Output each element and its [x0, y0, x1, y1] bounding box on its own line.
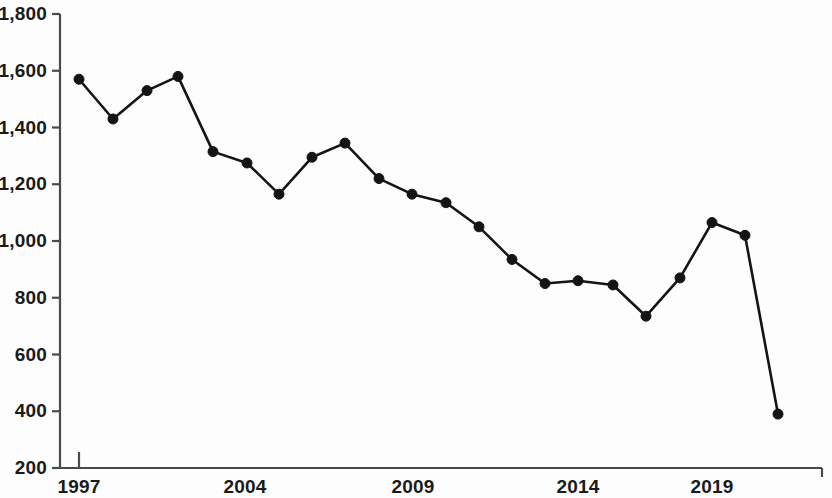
y-axis-tick-label: 1,600: [0, 61, 47, 80]
data-point-marker: [374, 174, 384, 184]
x-axis-tick-label: 2004: [205, 477, 285, 496]
data-point-marker: [773, 409, 783, 419]
axes: [52, 14, 822, 477]
data-series: [74, 71, 783, 419]
data-point-marker: [142, 86, 152, 96]
y-axis-tick-label: 400: [15, 401, 47, 420]
data-point-marker: [242, 158, 252, 168]
x-axis-tick-label: 1997: [39, 477, 119, 496]
data-point-marker: [540, 279, 550, 289]
series-line: [79, 76, 778, 414]
y-axis-tick-label: 1,200: [0, 174, 47, 193]
data-point-marker: [641, 311, 651, 321]
data-point-marker: [441, 198, 451, 208]
data-point-marker: [208, 147, 218, 157]
y-axis-tick-label: 600: [15, 345, 47, 364]
data-point-marker: [573, 276, 583, 286]
data-point-marker: [707, 218, 717, 228]
y-axis-tick-label: 1,400: [0, 118, 47, 137]
x-axis-tick-label: 2019: [672, 477, 752, 496]
data-point-marker: [675, 273, 685, 283]
y-axis-tick-label: 1,800: [0, 4, 47, 23]
plot-area: [0, 0, 832, 498]
line-chart: 1,8001,6001,4001,2001,000800600400200 19…: [0, 0, 832, 498]
data-point-marker: [740, 230, 750, 240]
y-axis-tick-label: 200: [15, 458, 47, 477]
data-point-marker: [474, 222, 484, 232]
x-axis-tick-label: 2009: [373, 477, 453, 496]
data-point-marker: [74, 74, 84, 84]
x-axis-tick-label: 2014: [538, 477, 618, 496]
data-point-marker: [407, 189, 417, 199]
y-axis-tick-label: 800: [15, 288, 47, 307]
data-point-marker: [108, 114, 118, 124]
data-point-marker: [173, 71, 183, 81]
data-point-marker: [608, 280, 618, 290]
data-point-marker: [507, 254, 517, 264]
y-axis-tick-label: 1,000: [0, 231, 47, 250]
data-point-marker: [340, 138, 350, 148]
data-point-marker: [274, 189, 284, 199]
data-point-marker: [307, 152, 317, 162]
